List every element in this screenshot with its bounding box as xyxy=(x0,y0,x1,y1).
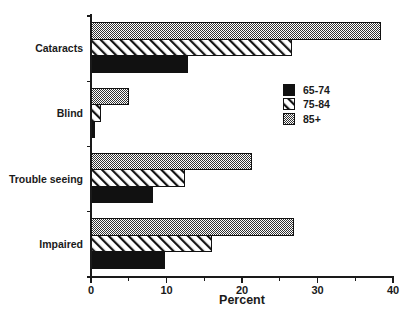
x-tick-label-30: 30 xyxy=(311,284,323,296)
category-label-cataracts: Cataracts xyxy=(35,42,83,54)
category-label-trouble-seeing: Trouble seeing xyxy=(9,173,83,185)
x-tick-label-40: 40 xyxy=(387,284,399,296)
bar-trouble-seeing-65-74 xyxy=(91,186,152,203)
legend-item-65-74: 65-74 xyxy=(283,84,330,96)
legend-label-75-84: 75-84 xyxy=(303,98,330,110)
bar-chart-figure: 010203040 CataractsBlindTrouble seeingIm… xyxy=(0,0,412,320)
legend: 65-7475-8485+ xyxy=(283,84,330,125)
bar-cataracts-85plus xyxy=(91,23,380,39)
bar-impaired-65-74 xyxy=(91,252,165,269)
legend-item-85plus: 85+ xyxy=(283,113,321,125)
bar-trouble-seeing-75-84 xyxy=(91,170,185,187)
category-label-blind: Blind xyxy=(57,107,83,119)
legend-item-75-84: 75-84 xyxy=(283,98,330,110)
bar-trouble-seeing-85plus xyxy=(91,153,252,170)
bar-impaired-75-84 xyxy=(91,235,212,252)
x-tick-label-10: 10 xyxy=(160,284,172,296)
bar-impaired-85plus xyxy=(91,219,293,236)
category-label-impaired: Impaired xyxy=(39,238,83,250)
legend-swatch-65-74 xyxy=(283,84,294,95)
category-labels: CataractsBlindTrouble seeingImpaired xyxy=(9,42,83,250)
legend-swatch-85plus xyxy=(283,113,294,124)
chart-canvas: 010203040 CataractsBlindTrouble seeingIm… xyxy=(0,0,412,320)
bar-blind-75-84 xyxy=(91,105,101,122)
x-axis-title: Percent xyxy=(219,293,266,307)
x-tick-label-0: 0 xyxy=(88,284,94,296)
bars-layer xyxy=(91,23,380,268)
legend-swatch-75-84 xyxy=(283,99,294,110)
legend-label-65-74: 65-74 xyxy=(303,84,330,96)
bar-cataracts-75-84 xyxy=(91,39,292,56)
bar-cataracts-65-74 xyxy=(91,56,188,73)
legend-label-85plus: 85+ xyxy=(303,113,321,125)
bar-blind-85plus xyxy=(91,88,128,105)
